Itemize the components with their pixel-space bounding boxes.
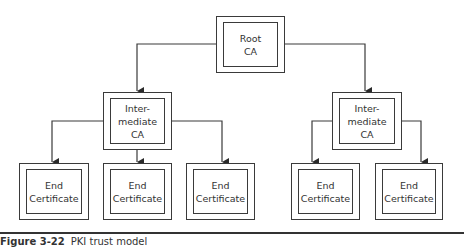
figure-number: Figure 3-22: [0, 236, 65, 247]
node-end-certificate-1-inner: End Certificate: [26, 169, 82, 214]
node-intermediate-ca-left-inner: Inter- mediate CA: [110, 98, 165, 144]
node-label: Certificate: [384, 192, 433, 205]
caption-divider: [0, 232, 464, 234]
node-label: End: [113, 179, 162, 192]
node-root-ca-inner: Root CA: [223, 22, 278, 67]
node-end-certificate-3-inner: End Certificate: [193, 169, 248, 214]
node-label: Certificate: [29, 192, 78, 205]
node-end-certificate-2-inner: End Certificate: [110, 169, 165, 214]
node-intermediate-ca-left: Inter- mediate CA: [103, 92, 172, 150]
node-label: End: [384, 179, 433, 192]
node-label: Certificate: [301, 192, 350, 205]
node-root-ca: Root CA: [216, 16, 285, 73]
node-label: End: [196, 179, 245, 192]
node-end-certificate-3: End Certificate: [186, 163, 255, 220]
node-intermediate-ca-right-inner: Inter- mediate CA: [339, 98, 395, 144]
edge-intermediate-left-to-end-1: [52, 121, 103, 162]
node-label: Inter-: [347, 102, 386, 115]
node-label: Certificate: [113, 192, 162, 205]
node-label: CA: [240, 45, 262, 58]
figure-caption: Figure 3-22PKI trust model: [0, 236, 147, 248]
node-end-certificate-2: End Certificate: [103, 163, 172, 220]
edge-root-to-intermediate-left: [137, 44, 216, 91]
node-end-certificate-5: End Certificate: [375, 163, 443, 220]
edge-intermediate-right-to-end-5: [402, 121, 421, 162]
node-end-certificate-5-inner: End Certificate: [382, 169, 436, 214]
node-end-certificate-4: End Certificate: [291, 163, 360, 220]
node-label: End: [301, 179, 350, 192]
node-label: Inter-: [118, 102, 157, 115]
node-label: Certificate: [196, 192, 245, 205]
node-label: CA: [118, 128, 157, 141]
node-label: mediate: [118, 115, 157, 128]
edge-root-to-intermediate-right: [285, 44, 365, 91]
node-end-certificate-1: End Certificate: [19, 163, 89, 220]
node-label: End: [29, 179, 78, 192]
figure-caption-text: PKI trust model: [71, 236, 148, 247]
node-label: CA: [347, 128, 386, 141]
node-label: mediate: [347, 115, 386, 128]
node-intermediate-ca-right: Inter- mediate CA: [332, 92, 402, 150]
node-end-certificate-4-inner: End Certificate: [298, 169, 353, 214]
edge-intermediate-left-to-end-3: [172, 121, 222, 162]
edge-intermediate-right-to-end-4: [312, 121, 332, 162]
node-label: Root: [240, 32, 262, 45]
